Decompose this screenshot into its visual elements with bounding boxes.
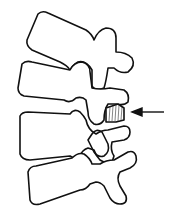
spine-drawing	[0, 0, 172, 218]
vertebrae-diagram	[0, 0, 172, 218]
pars-defect-hatch	[106, 104, 124, 122]
pointer-arrow-icon	[132, 108, 164, 116]
